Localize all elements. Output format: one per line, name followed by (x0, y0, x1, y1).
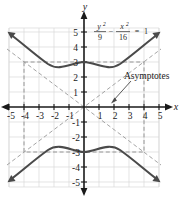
equation-numerator-2-exponent: 2 (126, 21, 129, 27)
y-tick-label: -3 (72, 148, 80, 158)
axis-arrowheads (1, 11, 173, 196)
x-tick-label: 2 (113, 111, 118, 121)
y-axis-arrow-down (81, 188, 88, 196)
y-tick-label: 4 (73, 43, 78, 53)
y-tick-labels: 5 4 3 2 1 -1 -2 -3 -4 -5 (72, 28, 80, 188)
y-tick-label: 3 (73, 58, 78, 68)
asymptotes-annotation-label: Asymptotes (124, 71, 170, 81)
x-tick-labels: -5 -4 -3 -2 -1 1 2 3 4 5 (7, 111, 163, 121)
y-tick-label: -1 (72, 118, 80, 128)
y-axis-label: y (82, 1, 88, 12)
x-tick-label: -3 (36, 111, 44, 121)
equation-equals-sign: = (135, 27, 140, 36)
x-tick-label: 3 (128, 111, 133, 121)
graph-canvas: x y -5 -4 -3 -2 -1 1 2 3 4 5 5 4 3 2 1 -… (0, 0, 187, 197)
y-tick-label: 5 (73, 28, 78, 38)
equation-right-hand-side: 1 (144, 27, 148, 36)
y-axis-arrow-up (81, 11, 88, 19)
x-axis-arrow-left (1, 104, 9, 111)
x-tick-label: -2 (51, 111, 59, 121)
equation-operator: − (109, 27, 114, 36)
x-tick-label: 1 (98, 111, 103, 121)
x-tick-label: 5 (158, 111, 163, 121)
y-tick-label: -4 (72, 163, 80, 173)
y-tick-label: -5 (72, 178, 80, 188)
y-tick-label: -2 (72, 133, 80, 143)
x-axis-arrow-right (165, 104, 173, 111)
hyperbola-figure: x y -5 -4 -3 -2 -1 1 2 3 4 5 5 4 3 2 1 -… (0, 0, 187, 197)
y-tick-label: 2 (73, 73, 78, 83)
x-axis-label: x (173, 101, 179, 112)
equation-numerator-2: x (119, 22, 124, 31)
x-tick-label: 4 (143, 111, 148, 121)
equation-label: y 2 9 − x 2 16 = 1 (94, 21, 148, 42)
equation-numerator-1: y (96, 22, 101, 31)
x-tick-label: -5 (7, 111, 15, 121)
equation-denominator-1: 9 (98, 33, 102, 42)
y-tick-label: 1 (73, 88, 78, 98)
equation-denominator-2: 16 (119, 33, 127, 42)
x-tick-label: -4 (21, 111, 29, 121)
equation-numerator-1-exponent: 2 (103, 21, 106, 27)
